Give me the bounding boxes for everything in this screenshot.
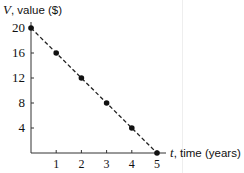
x-tick-label: 2 — [78, 157, 84, 172]
data-point — [53, 50, 59, 56]
x-tick-label: 1 — [53, 157, 59, 172]
y-tick-label: 16 — [12, 45, 25, 61]
y-tick-label: 12 — [12, 70, 25, 86]
x-axis-label: t, time (years) — [170, 145, 241, 161]
data-point — [129, 125, 135, 131]
data-point — [104, 100, 110, 106]
data-point — [154, 150, 160, 156]
x-axis-text: , time (years) — [174, 147, 241, 159]
y-axis-text: , value ($) — [11, 4, 62, 16]
x-tick-label: 5 — [154, 157, 160, 172]
y-axis-var: V — [3, 2, 11, 17]
data-point — [28, 25, 34, 31]
data-point — [79, 75, 85, 81]
series-line — [31, 28, 157, 153]
y-tick-label: 20 — [12, 20, 25, 36]
y-tick-label: 4 — [19, 120, 26, 136]
x-tick-label: 4 — [129, 157, 135, 172]
x-tick-label: 3 — [104, 157, 110, 172]
y-tick-label: 8 — [19, 95, 26, 111]
y-axis-label: V, value ($) — [3, 2, 62, 18]
